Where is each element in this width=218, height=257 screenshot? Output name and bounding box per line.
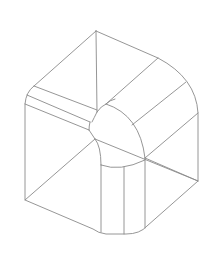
edge-line (97, 104, 106, 112)
edge-line (101, 160, 145, 168)
edge-line (89, 130, 95, 139)
edge-line (145, 158, 198, 181)
outline-path (25, 31, 198, 234)
edge-line (89, 122, 90, 130)
edge-line (106, 58, 158, 104)
edge-line (34, 86, 97, 110)
edge-line (132, 82, 186, 125)
isometric-block-drawing (0, 0, 218, 257)
edge-line (106, 104, 145, 158)
edge-line (96, 31, 97, 112)
edge-line (145, 113, 198, 158)
edge-line (92, 112, 97, 122)
edge-line (25, 139, 95, 200)
edge-line (95, 139, 101, 165)
outline (25, 31, 198, 234)
